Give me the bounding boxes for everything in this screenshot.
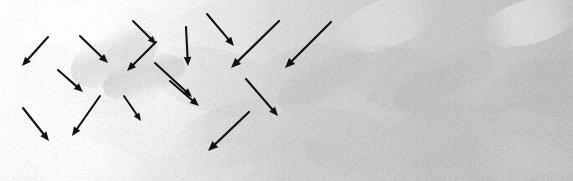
arrow-marker	[22, 37, 48, 66]
arrow-marker	[23, 108, 49, 141]
arrow-marker	[127, 42, 156, 71]
arrow-shaft	[133, 21, 152, 40]
arrow-shaft	[214, 112, 249, 145]
arrow-shaft	[23, 108, 45, 136]
arrow-marker	[231, 21, 279, 68]
arrow-shaft	[76, 96, 100, 130]
arrow-shaft	[291, 22, 331, 62]
arrow-marker	[207, 14, 234, 46]
arrow-shaft	[80, 36, 103, 58]
arrow-shaft	[124, 96, 138, 116]
arrow-marker	[285, 22, 331, 68]
arrow-shaft	[207, 14, 229, 41]
arrow-marker	[184, 27, 192, 66]
arrow-marker	[72, 96, 100, 136]
arrow-marker	[170, 81, 199, 106]
arrow-marker	[124, 96, 141, 121]
arrow-marker	[246, 79, 278, 116]
arrow-overlay-layer	[0, 0, 573, 181]
arrow-marker	[58, 70, 83, 92]
arrow-shaft	[58, 70, 78, 87]
image-canvas	[0, 0, 573, 181]
arrow-shaft	[132, 42, 156, 66]
arrow-head	[184, 57, 192, 66]
arrow-marker	[80, 36, 108, 63]
arrow-head	[134, 112, 141, 121]
arrow-shaft	[155, 63, 187, 92]
arrow-marker	[208, 112, 249, 151]
arrow-marker	[155, 63, 192, 97]
arrow-marker	[133, 21, 156, 44]
arrow-shaft	[27, 37, 48, 61]
arrow-shaft	[186, 27, 188, 59]
arrow-shaft	[170, 81, 194, 101]
arrow-head	[72, 126, 80, 136]
arrow-shaft	[246, 79, 273, 111]
arrow-shaft	[237, 21, 279, 62]
